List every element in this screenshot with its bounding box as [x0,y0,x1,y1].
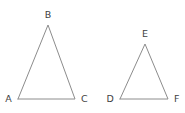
vertex-label-c: C [81,93,88,104]
triangle-abc-outline [18,25,75,99]
geometry-figure: A B C D E F [0,0,185,113]
vertex-label-a: A [5,93,12,104]
triangle-def-group: D E F [106,28,179,104]
vertex-label-d: D [106,93,114,104]
triangle-def-outline [120,44,168,99]
vertex-label-b: B [45,9,52,20]
vertex-label-e: E [142,28,148,39]
similar-triangles-svg: A B C D E F [0,0,185,113]
vertex-label-f: F [174,93,180,104]
triangle-abc-group: A B C [5,9,88,104]
